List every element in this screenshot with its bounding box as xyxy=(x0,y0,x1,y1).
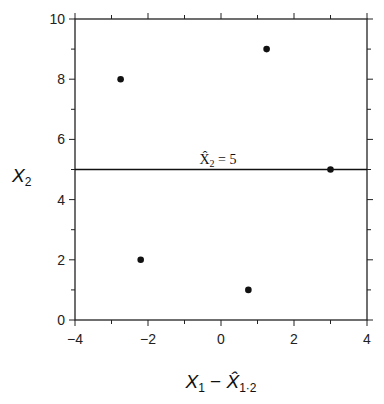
y-axis-label: X2 xyxy=(11,165,32,189)
y-tick-label: 8 xyxy=(57,71,65,87)
data-point xyxy=(245,287,252,294)
data-point xyxy=(137,257,144,264)
tick-labels: −4−20240246810 xyxy=(49,11,371,347)
x-tick-label: 4 xyxy=(363,331,371,347)
y-tick-label: 2 xyxy=(57,252,65,268)
x-tick-label: −2 xyxy=(140,331,156,347)
y-tick-label: 4 xyxy=(57,192,65,208)
x-tick-label: 0 xyxy=(217,331,225,347)
x-tick-label: 2 xyxy=(290,331,298,347)
y-tick-label: 6 xyxy=(57,131,65,147)
scatter-plot: −4−20240246810 X̂2 = 5 X2 X1 − X̂1·2 xyxy=(0,0,384,404)
reference-line-annotation: X̂2 = 5 xyxy=(199,151,236,169)
data-point xyxy=(117,76,124,83)
data-point xyxy=(263,46,270,53)
x-axis-label: X1 − X̂1·2 xyxy=(184,371,256,395)
y-tick-label: 10 xyxy=(49,11,65,27)
data-point xyxy=(327,166,334,173)
x-tick-label: −4 xyxy=(67,331,83,347)
y-tick-label: 0 xyxy=(57,312,65,328)
